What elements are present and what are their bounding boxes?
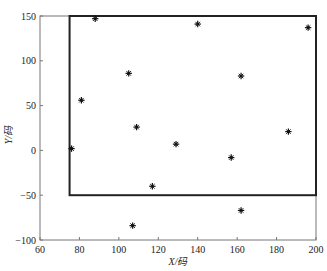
asterisk-marker [133,124,139,130]
asterisk-marker [129,222,135,228]
region-rectangle [70,16,316,195]
asterisk-marker [285,128,291,134]
asterisk-marker [173,141,179,147]
x-tick-label: 60 [35,244,45,255]
bounding-rectangle [70,16,316,195]
y-tick-label: 150 [21,11,36,22]
asterisk-marker [68,145,74,151]
asterisk-marker [92,15,98,21]
plot-frame [40,16,316,240]
data-points [68,15,311,228]
x-tick-label: 180 [269,244,284,255]
y-tick-label: −100 [15,235,36,246]
y-axis-ticks: −100−50050100150 [15,11,43,246]
asterisk-marker [228,154,234,160]
y-tick-label: 100 [21,55,36,66]
asterisk-marker [195,21,201,27]
asterisk-marker [149,183,155,189]
asterisk-marker [126,70,132,76]
asterisk-marker [238,207,244,213]
scatter-chart: −100−50050100150 6080100120140160180200 … [0,0,327,271]
x-tick-label: 100 [111,244,126,255]
x-axis-label: X/码 [168,256,189,267]
y-tick-label: 0 [31,145,36,156]
y-tick-label: 50 [26,100,36,111]
x-tick-label: 160 [230,244,245,255]
x-tick-label: 200 [309,244,324,255]
asterisk-marker [238,73,244,79]
y-tick-label: −50 [20,190,36,201]
x-tick-label: 80 [74,244,84,255]
y-axis-label: Y/码 [3,125,14,144]
x-tick-label: 120 [151,244,166,255]
asterisk-marker [78,97,84,103]
asterisk-marker [305,24,311,30]
x-tick-label: 140 [190,244,205,255]
